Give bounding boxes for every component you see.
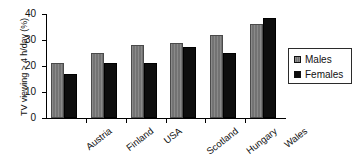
legend-label-females: Females (305, 69, 343, 80)
bar-austria-females (64, 74, 77, 118)
legend-label-males: Males (305, 54, 332, 65)
y-tick-label: 0 (30, 113, 36, 123)
x-category-label-hungary: Hungary (245, 126, 279, 156)
legend-swatch-males-icon (294, 56, 301, 63)
x-tick-mark (166, 119, 167, 123)
y-tick-mark: 10 (42, 92, 46, 93)
y-tick-label: 10 (25, 87, 36, 97)
bar-hungary-females (223, 53, 236, 118)
y-tick-label: 40 (25, 9, 36, 19)
bar-scotland-males (170, 43, 183, 118)
plot-area: 010203040 AustriaFinlandUSAScotlandHunga… (46, 14, 285, 118)
bar-finland-males (91, 53, 104, 118)
legend-item-males: Males (294, 53, 351, 66)
x-tick-mark (126, 119, 127, 123)
bar-usa-females (144, 63, 157, 118)
x-tick-mark (245, 119, 246, 123)
bar-chart-figure: TV viewing > 4 h/day (%) 010203040 Austr… (0, 0, 359, 167)
bar-scotland-females (183, 47, 196, 119)
x-tick-mark (205, 119, 206, 123)
x-category-label-austria: Austria (84, 126, 113, 152)
y-axis-line (46, 14, 47, 119)
bar-hungary-males (210, 35, 223, 118)
bar-finland-females (104, 63, 117, 118)
x-tick-mark (86, 119, 87, 123)
bar-wales-females (263, 18, 276, 118)
x-category-label-scotland: Scotland (205, 126, 240, 157)
x-category-label-usa: USA (162, 126, 184, 146)
y-tick-label: 20 (25, 61, 36, 71)
legend-item-females: Females (294, 68, 351, 81)
x-category-label-finland: Finland (124, 126, 155, 153)
legend: Males Females (288, 48, 352, 84)
y-tick-mark: 30 (42, 40, 46, 41)
bar-wales-males (250, 24, 263, 118)
x-category-label-wales: Wales (283, 126, 310, 150)
y-tick-mark: 0 (42, 118, 46, 119)
bar-austria-males (51, 63, 64, 118)
legend-swatch-females-icon (294, 71, 301, 78)
bar-usa-males (131, 45, 144, 118)
y-tick-mark: 20 (42, 66, 46, 67)
y-tick-label: 30 (25, 35, 36, 45)
y-tick-mark: 40 (42, 14, 46, 15)
